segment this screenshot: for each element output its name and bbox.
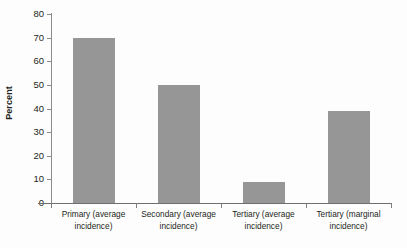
bar-chart: Percent 01020304050607080 Primary (avera… [0, 0, 407, 248]
category-label-line2: incidence) [47, 221, 140, 233]
y-axis-tick: 10 [0, 179, 51, 180]
bar [73, 38, 115, 203]
x-axis-category-label: Tertiary (averageincidence) [217, 209, 310, 232]
y-axis-tick-label: 50 [33, 79, 44, 90]
y-axis-tick-label: 80 [33, 8, 44, 19]
y-axis-ticks: 01020304050607080 [0, 0, 51, 204]
x-axis-tick-mark [136, 203, 137, 208]
x-axis-category-label: Tertiary (marginalincidence) [302, 209, 395, 232]
x-axis-category-label: Secondary (averageincidence) [132, 209, 225, 232]
y-axis-tick-label: 40 [33, 103, 44, 114]
y-axis-tick-label: 30 [33, 126, 44, 137]
y-axis-tick: 30 [0, 132, 51, 133]
y-axis-tick-label: 70 [33, 32, 44, 43]
x-axis-line [38, 203, 391, 204]
category-label-line2: incidence) [132, 221, 225, 233]
y-axis-tick-label: 10 [33, 173, 44, 184]
x-axis-tick-mark [306, 203, 307, 208]
y-axis-tick: 40 [0, 109, 51, 110]
category-label-line1: Tertiary (marginal [316, 209, 380, 219]
category-label-line1: Primary (average [62, 209, 126, 219]
bar [328, 111, 370, 203]
y-axis-tick: 70 [0, 38, 51, 39]
plot-area [51, 14, 391, 203]
x-axis-category-labels: Primary (averageincidence)Secondary (ave… [51, 209, 391, 245]
y-axis-tick-label: 60 [33, 55, 44, 66]
x-axis-tick-mark [391, 203, 392, 208]
bar [243, 182, 285, 203]
x-axis-tick-mark [51, 203, 52, 208]
bar [158, 85, 200, 203]
category-label-line2: incidence) [302, 221, 395, 233]
x-axis-tick-mark [221, 203, 222, 208]
y-axis-tick-label: 20 [33, 150, 44, 161]
x-axis-category-label: Primary (averageincidence) [47, 209, 140, 232]
y-axis-tick: 20 [0, 156, 51, 157]
y-axis-tick: 50 [0, 85, 51, 86]
y-axis-tick: 60 [0, 61, 51, 62]
category-label-line2: incidence) [217, 221, 310, 233]
category-label-line1: Tertiary (average [232, 209, 294, 219]
y-axis-tick: 80 [0, 14, 51, 15]
category-label-line1: Secondary (average [141, 209, 216, 219]
